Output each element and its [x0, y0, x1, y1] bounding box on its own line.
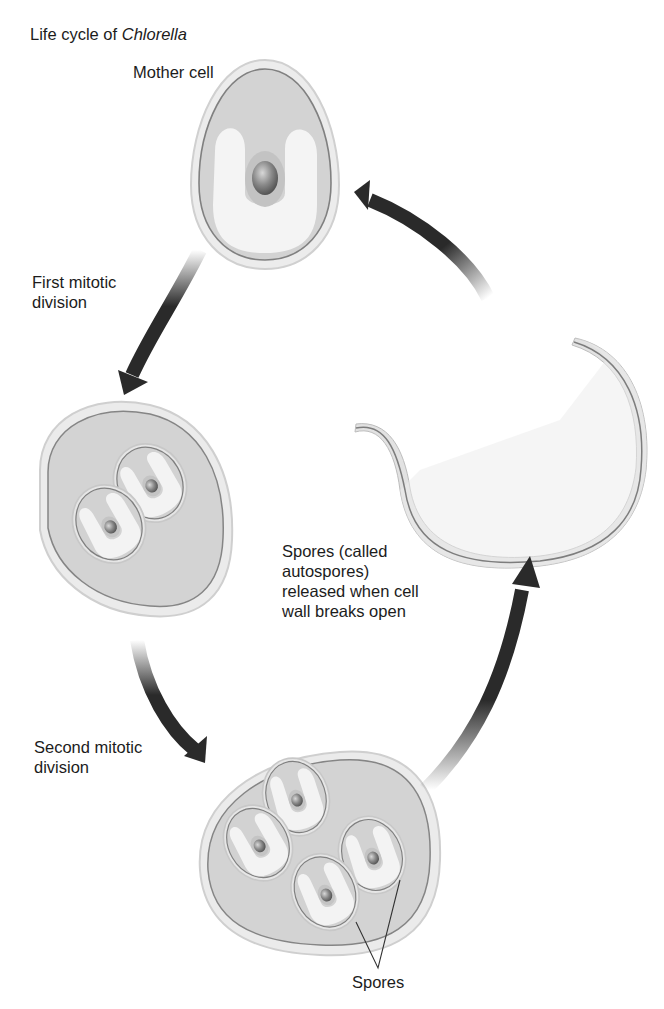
arrow-release — [425, 556, 540, 790]
diagram-title: Life cycle of Chlorella — [30, 24, 187, 44]
label-spores: Spores — [352, 972, 404, 992]
label-mother-cell: Mother cell — [133, 62, 214, 82]
label-first-division-line2: division — [32, 292, 116, 312]
released-spores — [355, 338, 647, 568]
label-first-division: First mitotic division — [32, 272, 116, 312]
label-second-division-line1: Second mitotic — [34, 737, 142, 757]
label-first-division-line1: First mitotic — [32, 272, 116, 292]
two-spore-cell — [40, 402, 232, 617]
four-spore-cell — [200, 749, 440, 968]
title-organism: Chlorella — [122, 25, 187, 43]
label-second-division: Second mitotic division — [34, 737, 142, 777]
label-release-line1: Spores (called — [282, 541, 419, 561]
label-release-line2: autospores) — [282, 561, 419, 581]
mother-cell — [191, 60, 339, 269]
label-release-line3: released when cell — [282, 581, 419, 601]
arrow-back-to-mother — [354, 180, 488, 298]
title-prefix: Life cycle of — [30, 25, 122, 43]
label-second-division-line2: division — [34, 757, 142, 777]
arrow-first-division — [118, 250, 200, 395]
label-release-line4: wall breaks open — [282, 601, 419, 621]
arrow-second-division — [137, 640, 207, 763]
life-cycle-diagram — [0, 0, 664, 1009]
label-spore-release: Spores (called autospores) released when… — [282, 541, 419, 621]
